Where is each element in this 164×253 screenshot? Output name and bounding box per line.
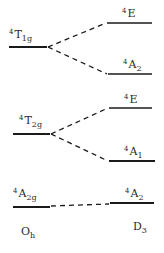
label-Oh-group: Oh <box>21 226 35 240</box>
multiplicity: 4 <box>122 7 126 15</box>
symbol: T <box>14 28 21 41</box>
correlation-T1g-A2 <box>48 47 107 74</box>
label-E-upper: 4E <box>122 8 136 19</box>
subscript: 2g <box>26 193 36 202</box>
symbol: E <box>129 93 137 106</box>
multiplicity: 4 <box>123 58 127 66</box>
correlation-A2g-A2 <box>51 204 109 206</box>
label-T1g: 4T1g <box>9 29 32 43</box>
multiplicity: 4 <box>13 187 17 195</box>
subscript: 2 <box>136 64 141 73</box>
label-A2-lower: 4A2 <box>125 188 144 202</box>
correlation-T2g-A1 <box>51 134 108 161</box>
multiplicity: 4 <box>9 28 13 36</box>
multiplicity: 4 <box>125 187 129 195</box>
subscript: 2 <box>138 193 143 202</box>
correlation-T2g-E <box>51 108 108 134</box>
symbol: D <box>133 220 142 233</box>
label-A1: 4A1 <box>124 146 143 160</box>
symbol: O <box>21 225 30 238</box>
correlation-T1g-E <box>48 23 106 47</box>
subscript: 1g <box>22 34 32 43</box>
label-E-lower: 4E <box>124 94 138 105</box>
subscript: h <box>30 231 35 240</box>
subscript: 3 <box>142 226 147 235</box>
multiplicity: 4 <box>124 145 128 153</box>
subscript: 2g <box>32 120 42 129</box>
symbol: T <box>24 114 31 127</box>
label-A2g: 4A2g <box>13 188 37 202</box>
label-T2g: 4T2g <box>19 115 42 129</box>
symbol: E <box>127 7 135 20</box>
label-A2-upper: 4A2 <box>123 59 142 73</box>
subscript: 1 <box>137 151 142 160</box>
multiplicity: 4 <box>19 114 23 122</box>
multiplicity: 4 <box>124 93 128 101</box>
label-D3-group: D3 <box>133 221 147 235</box>
